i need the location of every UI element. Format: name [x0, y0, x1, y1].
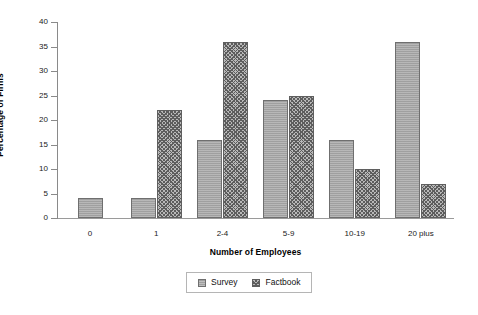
- bar-survey: [78, 198, 103, 218]
- bar-chart: Percentage of Firms 0510152025303540 012…: [0, 0, 478, 315]
- bar-factbook: [289, 96, 314, 219]
- y-axis-tick-label: 10: [2, 165, 48, 173]
- legend-label: Factbook: [265, 278, 300, 287]
- bar-group: [322, 22, 388, 218]
- bar-factbook: [157, 110, 182, 218]
- bar-survey: [263, 100, 288, 218]
- y-axis-tick-label: 40: [2, 18, 48, 26]
- y-axis-tick-label: 5: [2, 190, 48, 198]
- y-axis-tick-label: 0: [2, 214, 48, 222]
- y-axis-tick-label: 20: [2, 116, 48, 124]
- x-axis-tick-label: 2-4: [189, 229, 255, 239]
- bar-factbook: [421, 184, 446, 218]
- y-axis-tick: [51, 218, 58, 219]
- legend-swatch-survey-icon: [198, 279, 206, 287]
- x-axis-tick-label: 5-9: [256, 229, 322, 239]
- chart-legend: SurveyFactbook: [186, 272, 312, 293]
- y-axis-tick-label: 25: [2, 92, 48, 100]
- x-axis-tick-label: 0: [57, 229, 123, 239]
- legend-swatch-factbook-icon: [252, 279, 260, 287]
- x-axis-title: Number of Employees: [57, 247, 454, 257]
- y-axis-tick-label: 35: [2, 43, 48, 51]
- legend-label: Survey: [211, 278, 237, 287]
- bar-factbook: [355, 169, 380, 218]
- bar-group: [388, 22, 454, 218]
- legend-entry: Survey: [198, 278, 237, 287]
- x-axis-line: [57, 218, 454, 219]
- bar-group: [123, 22, 189, 218]
- bar-group: [57, 22, 123, 218]
- bar-survey: [329, 140, 354, 218]
- legend-entry: Factbook: [252, 278, 300, 287]
- bar-survey: [197, 140, 222, 218]
- bar-group: [256, 22, 322, 218]
- bar-survey: [395, 42, 420, 218]
- plot-area: [57, 22, 454, 218]
- bar-factbook: [223, 42, 248, 218]
- y-axis-tick-label: 15: [2, 141, 48, 149]
- bar-group: [189, 22, 255, 218]
- bar-survey: [131, 198, 156, 218]
- x-axis-tick-label: 1: [123, 229, 189, 239]
- y-axis-tick-label: 30: [2, 67, 48, 75]
- x-axis-tick-label: 10-19: [322, 229, 388, 239]
- x-axis-tick-label: 20 plus: [388, 229, 454, 239]
